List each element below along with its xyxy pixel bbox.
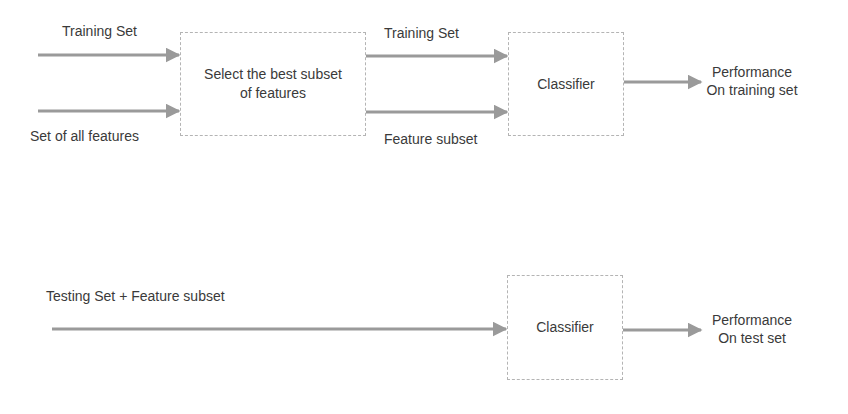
- label-performance-testing: Performance On test set: [704, 311, 800, 347]
- classifier-box-training: Classifier: [508, 32, 624, 136]
- classifier-box-testing: Classifier: [507, 275, 623, 380]
- diagram-canvas: Training Set Set of all features Select …: [0, 0, 848, 414]
- label-training-set-mid: Training Set: [384, 24, 459, 42]
- label-feature-subset-mid: Feature subset: [384, 130, 477, 148]
- performance-testing-line1: Performance: [704, 311, 800, 329]
- classifier-training-label: Classifier: [537, 75, 595, 94]
- classifier-testing-label: Classifier: [536, 318, 594, 337]
- label-performance-training: Performance On training set: [696, 63, 808, 99]
- label-testing-input: Testing Set + Feature subset: [46, 287, 225, 305]
- feature-selector-box: Select the best subset of features: [180, 32, 366, 136]
- performance-training-line1: Performance: [696, 63, 808, 81]
- label-training-set-input: Training Set: [62, 22, 137, 40]
- selector-line2: of features: [204, 84, 342, 103]
- performance-testing-line2: On test set: [704, 329, 800, 347]
- selector-line1: Select the best subset: [204, 65, 342, 84]
- label-all-features: Set of all features: [30, 127, 139, 145]
- performance-training-line2: On training set: [696, 81, 808, 99]
